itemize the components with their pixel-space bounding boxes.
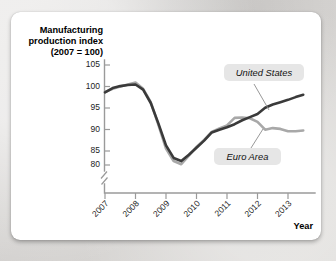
x-tick-label-2013: 2013 [273,198,294,219]
axis-lines [105,184,316,193]
x-tick-label-2007: 2007 [90,198,111,219]
x-tick-label-2010: 2010 [181,198,202,219]
chart-card: Manufacturing production index (2007 = 1… [11,12,321,240]
annotation-united-states-label: United States [236,67,293,78]
y-tick-label-85: 85 [91,145,101,155]
chart-plot-area: Manufacturing production index (2007 = 1… [11,12,321,240]
x-tick-marks [105,193,288,199]
annotation-united-states: United States [224,64,304,110]
y-tick-label-90: 90 [91,124,101,134]
y-axis-title-line3: (2007 = 100) [51,47,103,57]
annotation-euro-area-label: Euro Area [227,151,269,162]
y-tick-marks [105,65,111,165]
y-tick-label-80: 80 [91,159,101,169]
y-axis-break-icon [101,172,108,185]
y-tick-label-105: 105 [86,59,100,69]
x-axis-title: Year [294,221,314,231]
y-axis-title-line1: Manufacturing [40,25,103,35]
x-tick-label-2009: 2009 [151,198,172,219]
y-tick-label-100: 100 [86,81,100,91]
x-tick-label-2011: 2011 [212,198,232,218]
y-tick-label-95: 95 [91,102,101,112]
y-axis-title-line2: production index [28,36,103,46]
annotation-euro-area: Euro Area [214,129,281,165]
x-tick-label-2012: 2012 [242,198,263,219]
x-tick-label-2008: 2008 [120,198,141,219]
line-chart: Manufacturing production index (2007 = 1… [11,12,321,240]
